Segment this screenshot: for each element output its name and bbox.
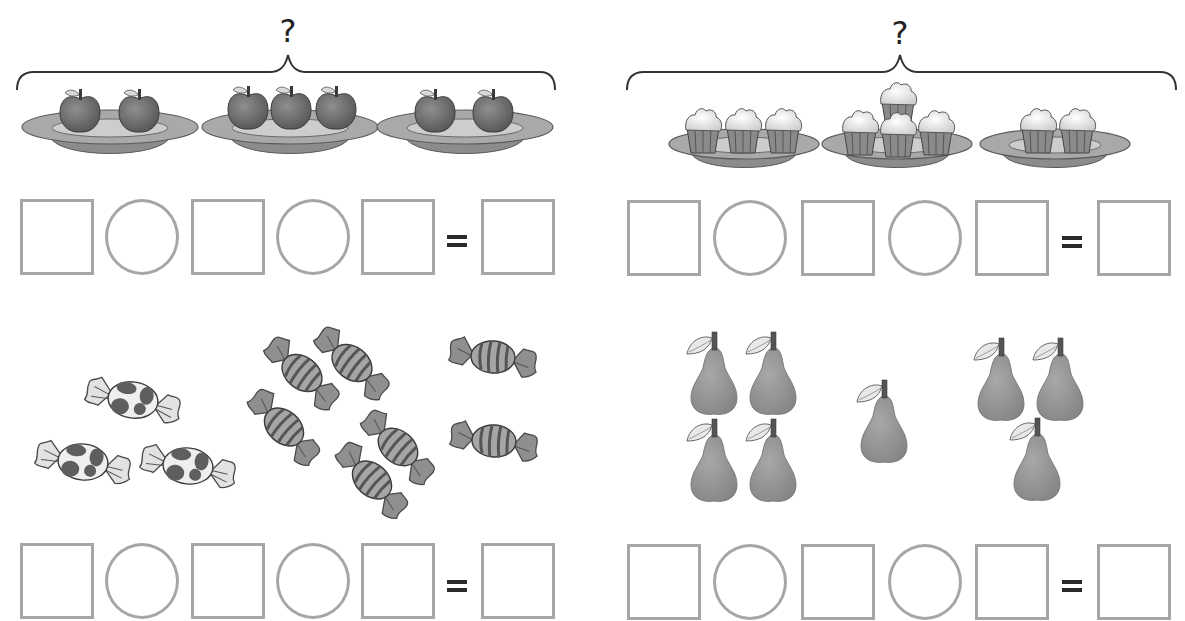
- operator-circle-1[interactable]: [105, 543, 179, 619]
- operator-circle-1[interactable]: [713, 544, 787, 620]
- addend-box-3[interactable]: [975, 544, 1049, 620]
- addend-box-2[interactable]: [801, 200, 875, 276]
- pear-group-1: [687, 332, 796, 501]
- addend-box-1[interactable]: [627, 544, 701, 620]
- candy-group-striped-diagonal: [239, 322, 443, 523]
- operator-circle-2[interactable]: [888, 544, 962, 620]
- illustration-layer: [0, 0, 1185, 621]
- pear-group-3: [974, 338, 1083, 500]
- addend-box-3[interactable]: [361, 199, 435, 275]
- addend-box-3[interactable]: [975, 200, 1049, 276]
- addend-box-3[interactable]: [361, 543, 435, 619]
- result-box[interactable]: [1097, 200, 1171, 276]
- pear-group-2: [857, 380, 907, 462]
- equals-sign: [447, 580, 467, 592]
- addend-box-1[interactable]: [20, 543, 94, 619]
- operator-circle-2[interactable]: [888, 200, 962, 276]
- operator-circle-2[interactable]: [276, 199, 350, 275]
- equals-sign: [1062, 236, 1082, 248]
- operator-circle-1[interactable]: [105, 199, 179, 275]
- equals-sign: [447, 235, 467, 247]
- equals-sign: [1062, 580, 1082, 592]
- apple-group-1: [22, 89, 198, 154]
- operator-circle-1[interactable]: [713, 200, 787, 276]
- addend-box-2[interactable]: [801, 544, 875, 620]
- addend-box-1[interactable]: [627, 200, 701, 276]
- cupcake-group-3: [980, 109, 1130, 168]
- addend-box-1[interactable]: [20, 199, 94, 275]
- result-box[interactable]: [481, 543, 555, 619]
- cupcake-group-2: [822, 83, 972, 168]
- apple-group-2: [202, 86, 378, 154]
- result-box[interactable]: [481, 199, 555, 275]
- cupcake-group-1: [669, 109, 819, 168]
- addend-box-2[interactable]: [191, 543, 265, 619]
- brace-apples: [17, 55, 555, 90]
- operator-circle-2[interactable]: [276, 543, 350, 619]
- candy-group-striped-horizontal: [448, 336, 539, 462]
- apple-group-3: [377, 89, 553, 154]
- result-box[interactable]: [1097, 544, 1171, 620]
- addend-box-2[interactable]: [191, 199, 265, 275]
- candy-group-spotted: [33, 375, 237, 488]
